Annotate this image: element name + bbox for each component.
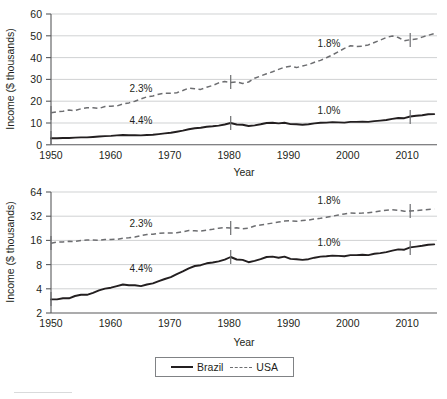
y-axis-title: Income ($ thousands) (4, 28, 16, 130)
x-label-2000: 2000 (336, 149, 360, 161)
x-label-1970: 1970 (158, 149, 182, 161)
income-growth-figure: 60 50 40 30 20 10 0 1950 1960 1970 1980 … (0, 0, 447, 399)
series-line-brazil (51, 244, 434, 299)
y-label-40: 40 (30, 52, 42, 64)
log-annotations: 2.3% 1.8% 4.4% 1.0% (130, 195, 341, 274)
x-axis-title: Year (233, 166, 255, 178)
y-label-20: 20 (30, 95, 42, 107)
y-label-50: 50 (30, 30, 42, 42)
linear-x-tick-labels: 1950 1960 1970 1980 1990 2000 2010 (39, 149, 419, 161)
log-gridlines (51, 192, 437, 289)
x-label-1960: 1960 (99, 317, 123, 329)
log-x-tick-labels: 1950 1960 1970 1980 1990 2000 2010 (39, 317, 419, 329)
legend-entry-brazil: Brazil (171, 361, 223, 373)
linear-chart-svg: 60 50 40 30 20 10 0 1950 1960 1970 1980 … (0, 0, 447, 185)
linear-gridlines (51, 14, 437, 123)
annotation-brazil-4-4-percent: 4.4% (130, 115, 153, 126)
y-label-10: 10 (30, 117, 42, 129)
log-series-group (51, 209, 434, 299)
y-label-60: 60 (30, 8, 42, 20)
annotation-usa-2-3-percent: 2.3% (130, 83, 153, 94)
y-label-8: 8 (36, 259, 42, 271)
y-label-32: 32 (30, 210, 42, 222)
legend-label-brazil: Brazil (197, 361, 223, 373)
chart-panel-linear: 60 50 40 30 20 10 0 1950 1960 1970 1980 … (0, 0, 447, 185)
chart-panel-log: 64 32 16 8 4 2 1950 1960 1970 1980 1990 … (0, 180, 447, 355)
log-y-tick-labels: 64 32 16 8 4 2 (30, 186, 42, 319)
y-axis-title: Income ($ thousands) (4, 201, 16, 303)
linear-y-tick-labels: 60 50 40 30 20 10 0 (30, 8, 42, 151)
annotation-usa-2-3-percent: 2.3% (130, 218, 153, 229)
annotation-usa-1-8-percent: 1.8% (318, 195, 341, 206)
y-label-4: 4 (36, 283, 42, 295)
x-label-2000: 2000 (336, 317, 360, 329)
dashed-line-swatch-icon (230, 367, 252, 368)
linear-series-group (51, 34, 434, 139)
log-chart-svg: 64 32 16 8 4 2 1950 1960 1970 1980 1990 … (0, 180, 447, 355)
x-label-1950: 1950 (39, 317, 63, 329)
x-label-1950: 1950 (39, 149, 63, 161)
legend-entry-usa: USA (230, 361, 278, 373)
x-label-1970: 1970 (158, 317, 182, 329)
solid-line-swatch-icon (171, 366, 193, 368)
annotation-brazil-1-0-percent: 1.0% (318, 105, 341, 116)
x-axis-title: Year (233, 336, 255, 348)
annotation-brazil-1-0-percent: 1.0% (318, 237, 341, 248)
series-line-brazil (51, 114, 434, 138)
y-label-16: 16 (30, 234, 42, 246)
linear-period-markers (51, 33, 410, 145)
y-label-30: 30 (30, 73, 42, 85)
series-line-usa (51, 209, 434, 243)
x-label-1960: 1960 (99, 149, 123, 161)
x-label-1990: 1990 (277, 317, 301, 329)
x-label-1980: 1980 (217, 149, 241, 161)
legend-label-usa: USA (256, 361, 278, 373)
x-label-2010: 2010 (395, 317, 419, 329)
annotation-brazil-4-4-percent: 4.4% (130, 263, 153, 274)
annotation-usa-1-8-percent: 1.8% (318, 38, 341, 49)
chart-legend: Brazil USA (155, 357, 294, 377)
x-label-1980: 1980 (217, 317, 241, 329)
footer-divider (14, 392, 72, 393)
y-label-64: 64 (30, 186, 42, 198)
x-label-1990: 1990 (277, 149, 301, 161)
x-label-2010: 2010 (395, 149, 419, 161)
